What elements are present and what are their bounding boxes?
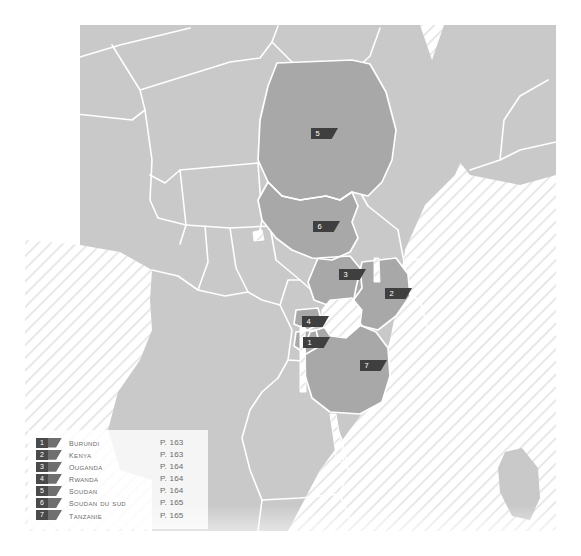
map-marker-number: 2: [385, 288, 398, 299]
legend-marker-tail: [48, 474, 62, 484]
legend-item-soudan-du-sud[interactable]: 6Soudan du SudP. 165: [36, 497, 200, 508]
legend-item-rwanda[interactable]: 4RwandaP. 164: [36, 473, 200, 484]
lake-turkana: [374, 258, 380, 282]
legend-marker-tail: [48, 486, 62, 496]
map-marker-number: 6: [313, 221, 326, 232]
map-marker-number: 7: [360, 360, 373, 371]
legend-marker-number: 3: [36, 462, 48, 472]
legend-page-reference: P. 164: [160, 462, 200, 471]
legend-marker-tail: [48, 498, 62, 508]
legend-country-name: Soudan: [69, 485, 160, 496]
legend-item-soudan[interactable]: 5SoudanP. 164: [36, 485, 200, 496]
map-marker-soudan-du-sud[interactable]: 6: [313, 221, 340, 232]
legend-country-name: Tanzanie: [69, 510, 160, 521]
legend-marker-number: 5: [36, 486, 48, 496]
legend-item-ouganda[interactable]: 3OugandaP. 164: [36, 461, 200, 472]
map-marker-kenya[interactable]: 2: [385, 288, 412, 299]
legend-marker-number: 6: [36, 498, 48, 508]
legend-country-name: Ouganda: [69, 461, 160, 472]
legend-marker-2: 2: [36, 450, 62, 460]
map-marker-number: 5: [311, 128, 324, 139]
legend-marker-tail: [48, 510, 62, 520]
map-marker-soudan[interactable]: 5: [311, 128, 338, 139]
legend-marker-4: 4: [36, 474, 62, 484]
legend-item-kenya[interactable]: 2KenyaP. 163: [36, 449, 200, 460]
legend-item-burundi[interactable]: 1BurundiP. 163: [36, 437, 200, 448]
map-marker-ouganda[interactable]: 3: [339, 269, 366, 280]
legend-country-name: Burundi: [69, 437, 160, 448]
map-marker-tail: [315, 316, 329, 327]
lake-tanganyika: [300, 326, 306, 392]
map-marker-tail: [326, 221, 340, 232]
map-marker-number: 3: [339, 269, 352, 280]
legend-marker-number: 4: [36, 474, 48, 484]
legend-marker-5: 5: [36, 486, 62, 496]
legend-country-name: Kenya: [69, 449, 160, 460]
legend-marker-number: 1: [36, 438, 48, 448]
legend-marker-tail: [48, 438, 62, 448]
legend-marker-number: 7: [36, 510, 48, 520]
map-marker-burundi[interactable]: 1: [303, 337, 330, 348]
map-marker-tail: [398, 288, 412, 299]
legend-country-name: Rwanda: [69, 473, 160, 484]
legend-marker-number: 2: [36, 450, 48, 460]
legend-marker-6: 6: [36, 498, 62, 508]
legend-marker-1: 1: [36, 438, 62, 448]
legend-page-reference: P. 163: [160, 450, 200, 459]
legend-page-reference: P. 165: [160, 511, 200, 520]
legend-page-reference: P. 164: [160, 474, 200, 483]
map-legend: 1BurundiP. 1632KenyaP. 1633OugandaP. 164…: [28, 430, 208, 529]
legend-marker-tail: [48, 462, 62, 472]
map-marker-tail: [352, 269, 366, 280]
map-marker-tanzanie[interactable]: 7: [360, 360, 387, 371]
map-marker-rwanda[interactable]: 4: [302, 316, 329, 327]
map-marker-tail: [316, 337, 330, 348]
legend-page-reference: P. 165: [160, 498, 200, 507]
legend-marker-7: 7: [36, 510, 62, 520]
map-marker-tail: [324, 128, 338, 139]
legend-item-tanzanie[interactable]: 7TanzanieP. 165: [36, 509, 200, 520]
legend-page-reference: P. 163: [160, 438, 200, 447]
lake-chad: [253, 230, 264, 241]
map-page: 1234567 1BurundiP. 1632KenyaP. 1633Ougan…: [0, 0, 581, 556]
legend-country-name: Soudan du Sud: [69, 497, 160, 508]
map-marker-number: 1: [303, 337, 316, 348]
map-marker-number: 4: [302, 316, 315, 327]
legend-marker-tail: [48, 450, 62, 460]
legend-page-reference: P. 164: [160, 486, 200, 495]
legend-marker-3: 3: [36, 462, 62, 472]
map-marker-tail: [373, 360, 387, 371]
